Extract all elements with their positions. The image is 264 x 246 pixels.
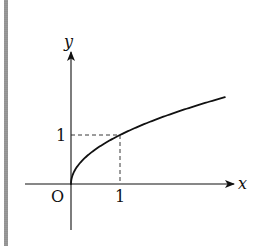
y-tick-label-1: 1 [56,126,66,145]
sqrt-curve [71,97,225,184]
y-axis-label: y [63,32,74,51]
origin-label: O [51,187,64,206]
x-axis-label: x [238,174,247,193]
x-tick-label-1: 1 [115,187,125,206]
sqrt-function-graph: y x O 1 1 [0,0,264,246]
